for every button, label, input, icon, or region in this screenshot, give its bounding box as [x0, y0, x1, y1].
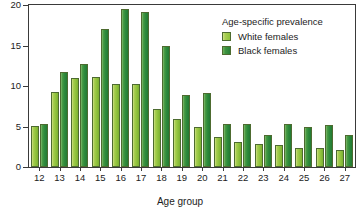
- bar-white-females-age-19: [173, 119, 181, 167]
- bar-white-females-age-16: [112, 84, 120, 167]
- bar-white-females-age-15: [92, 77, 100, 167]
- bar-black-females-age-16: [121, 9, 129, 167]
- y-axis: 05101520: [0, 4, 28, 168]
- x-axis-tick-label: 20: [191, 172, 213, 183]
- bar-black-females-age-13: [60, 72, 68, 167]
- y-axis-tick-label: 10: [10, 80, 21, 91]
- legend-swatch-icon: [222, 46, 231, 55]
- x-axis-tick-label: 12: [28, 172, 50, 183]
- bar-group: [112, 5, 129, 167]
- bar-white-females-age-14: [71, 78, 79, 167]
- x-axis-tick-label: 23: [252, 172, 274, 183]
- x-axis-tick-label: 19: [171, 172, 193, 183]
- x-axis-tick-mark: [304, 168, 305, 171]
- x-axis-tick-mark: [223, 168, 224, 171]
- bar-black-females-age-24: [284, 124, 292, 167]
- x-axis-tick-mark: [39, 168, 40, 171]
- y-axis-tick-label: 0: [16, 161, 21, 172]
- x-axis-tick-mark: [161, 168, 162, 171]
- y-axis-tick-label: 15: [10, 40, 21, 51]
- x-axis-tick-label: 14: [69, 172, 91, 183]
- bar-white-females-age-18: [153, 109, 161, 167]
- bar-group: [71, 5, 88, 167]
- bar-group: [51, 5, 68, 167]
- x-axis-tick-mark: [100, 168, 101, 171]
- bar-white-females-age-23: [255, 144, 263, 167]
- legend-swatch-icon: [222, 32, 231, 41]
- bar-white-females-age-26: [316, 148, 324, 167]
- x-axis-tick-label: 15: [89, 172, 111, 183]
- legend-entry-black-f: Black females: [222, 45, 354, 56]
- legend-label: Black females: [238, 45, 297, 56]
- bar-group: [173, 5, 190, 167]
- legend-entry-white-f: White females: [222, 31, 354, 42]
- bar-black-females-age-20: [203, 93, 211, 167]
- x-axis-tick-mark: [345, 168, 346, 171]
- x-axis-tick-label: 21: [212, 172, 234, 183]
- bar-white-females-age-13: [51, 92, 59, 167]
- legend-title: Age-specific prevalence: [222, 16, 354, 27]
- x-axis-title: Age group: [0, 196, 360, 207]
- bar-black-females-age-21: [223, 124, 231, 167]
- x-axis-tick-mark: [182, 168, 183, 171]
- bar-white-females-age-22: [234, 142, 242, 167]
- bar-white-females-age-27: [336, 150, 344, 167]
- x-axis-tick-label: 24: [273, 172, 295, 183]
- x-axis-tick-label: 25: [293, 172, 315, 183]
- legend-entries: White femalesBlack females: [222, 31, 354, 56]
- x-axis-tick-mark: [243, 168, 244, 171]
- bar-white-females-age-21: [214, 137, 222, 167]
- bar-white-females-age-20: [194, 127, 202, 167]
- bar-group: [31, 5, 48, 167]
- x-axis-tick-mark: [141, 168, 142, 171]
- x-axis-tick-label: 13: [49, 172, 71, 183]
- legend: Age-specific prevalence White femalesBla…: [222, 16, 354, 56]
- bar-group: [153, 5, 170, 167]
- legend-label: White females: [238, 31, 298, 42]
- bar-black-females-age-25: [304, 127, 312, 168]
- bar-white-females-age-25: [295, 148, 303, 167]
- x-axis-tick-mark: [121, 168, 122, 171]
- bar-chart: 05101520 1213141516171819202122232425262…: [0, 0, 360, 217]
- bar-black-females-age-26: [325, 125, 333, 167]
- bar-white-females-age-17: [132, 84, 140, 167]
- bar-black-females-age-14: [80, 64, 88, 167]
- bar-black-females-age-18: [162, 46, 170, 167]
- x-axis-tick-mark: [284, 168, 285, 171]
- x-axis-tick-label: 18: [150, 172, 172, 183]
- x-axis-tick-label: 26: [313, 172, 335, 183]
- bar-black-females-age-23: [264, 135, 272, 167]
- bar-white-females-age-24: [275, 145, 283, 167]
- x-axis-tick-mark: [263, 168, 264, 171]
- x-axis-tick-mark: [80, 168, 81, 171]
- y-axis-tick-label: 5: [16, 121, 21, 132]
- bar-group: [194, 5, 211, 167]
- bar-black-females-age-27: [345, 135, 353, 167]
- bar-black-females-age-17: [141, 12, 149, 167]
- bar-white-females-age-12: [31, 126, 39, 167]
- x-axis-tick-label: 17: [130, 172, 152, 183]
- bar-black-females-age-22: [243, 124, 251, 167]
- x-axis-tick-mark: [202, 168, 203, 171]
- x-axis-tick-label: 22: [232, 172, 254, 183]
- x-axis-tick-mark: [324, 168, 325, 171]
- bar-black-females-age-12: [40, 124, 48, 167]
- x-axis-tick-label: 27: [334, 172, 356, 183]
- bar-group: [92, 5, 109, 167]
- bar-group: [132, 5, 149, 167]
- bar-black-females-age-15: [101, 29, 109, 168]
- x-axis-tick-label: 16: [110, 172, 132, 183]
- x-axis: 12131415161718192021222324252627: [29, 168, 355, 186]
- x-axis-tick-mark: [60, 168, 61, 171]
- bar-black-females-age-19: [182, 95, 190, 167]
- y-axis-tick-label: 20: [10, 0, 21, 10]
